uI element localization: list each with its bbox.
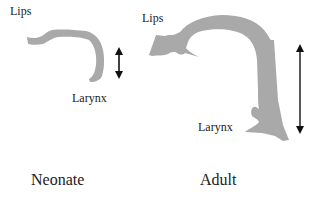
- adult-lips-label: Lips: [142, 12, 163, 24]
- vocal-tract-diagram: [0, 0, 319, 199]
- neonate-larynx-label: Larynx: [72, 92, 107, 104]
- adult-larynx-label: Larynx: [198, 121, 233, 133]
- neonate-vocal-tract-shape: [27, 30, 104, 82]
- adult-length-arrow: [296, 44, 304, 134]
- neonate-caption: Neonate: [31, 172, 84, 188]
- neonate-length-arrow: [115, 47, 123, 79]
- adult-caption: Adult: [200, 172, 236, 188]
- neonate-lips-label: Lips: [10, 5, 31, 17]
